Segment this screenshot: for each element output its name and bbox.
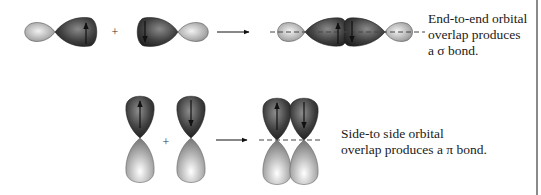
frame-border — [536, 0, 538, 195]
pi-bond-caption: Side-to side orbital overlap produces a … — [341, 126, 487, 158]
orbital-bottom-lobe — [263, 140, 291, 185]
orbital-small-lobe — [178, 23, 208, 42]
caption-line: End-to-end orbital — [428, 11, 527, 27]
orbital-bottom-lobe — [126, 138, 154, 183]
orbital-small-lobe — [25, 23, 55, 42]
plus-sign: + — [112, 25, 119, 39]
caption-line: Side-to side orbital — [341, 126, 487, 142]
caption-line: a σ bond. — [428, 43, 527, 59]
orbital-bottom-lobe — [290, 140, 318, 185]
p-orbital-right-pi — [177, 96, 205, 182]
pi-bond-overlap — [259, 98, 323, 184]
caption-line: overlap produces a π bond. — [341, 142, 487, 158]
orbital-bottom-lobe — [177, 138, 205, 183]
p-orbital-left-sigma — [25, 18, 97, 47]
sigma-bond-overlap — [270, 18, 425, 46]
p-orbital-right-sigma — [137, 18, 208, 47]
orbital-large-lobe — [55, 18, 97, 47]
plus-sign: + — [163, 135, 170, 149]
caption-line: overlap produces — [428, 27, 527, 43]
orbital-large-lobe — [137, 18, 178, 47]
sigma-bond-caption: End-to-end orbital overlap produces a σ … — [428, 11, 527, 59]
p-orbital-left-pi — [126, 96, 154, 182]
